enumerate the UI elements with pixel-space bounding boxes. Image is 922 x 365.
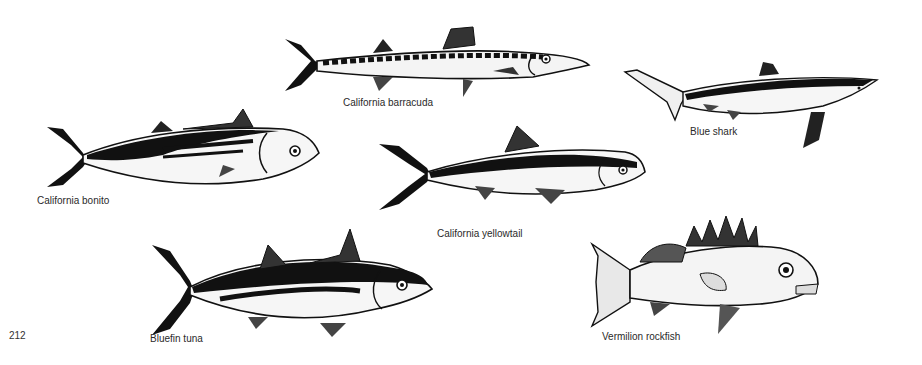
figure-bluefin-tuna: Bluefin tuna bbox=[150, 225, 440, 350]
page-number: 212 bbox=[9, 330, 26, 341]
label-bluefin-tuna: Bluefin tuna bbox=[150, 333, 203, 344]
label-california-bonito: California bonito bbox=[37, 195, 109, 206]
shark-icon bbox=[623, 60, 883, 152]
figure-vermilion-rockfish: Vermilion rockfish bbox=[590, 212, 825, 347]
bonito-icon bbox=[43, 105, 328, 205]
label-vermilion-rockfish: Vermilion rockfish bbox=[602, 331, 680, 342]
figure-california-bonito: California bonito bbox=[43, 105, 328, 215]
tuna-icon bbox=[150, 225, 440, 340]
rockfish-icon bbox=[590, 212, 825, 337]
yellowtail-icon bbox=[375, 124, 650, 219]
figure-blue-shark: Blue shark bbox=[623, 60, 883, 152]
label-california-barracuda: California barracuda bbox=[343, 97, 433, 108]
label-california-yellowtail: California yellowtail bbox=[437, 228, 523, 239]
figure-california-barracuda: California barracuda bbox=[283, 25, 593, 105]
label-blue-shark: Blue shark bbox=[690, 126, 737, 137]
barracuda-icon bbox=[283, 25, 593, 105]
